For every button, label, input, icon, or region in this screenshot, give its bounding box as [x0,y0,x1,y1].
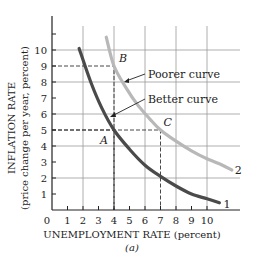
x-tick-label: 4 [111,215,117,226]
x-tick-label: 5 [126,215,132,226]
y-tick-label: 6 [41,109,47,120]
y-tick-label: 4 [41,141,47,152]
x-axis-title: UNEMPLOYMENT RATE (percent) [43,229,220,240]
y-tick-label: 3 [41,157,47,168]
phillips-curve-chart: 01234567891012345678910 12ABCPoorer curv… [0,0,258,258]
y-tick-label: 1 [41,189,47,200]
point-label-B: B [118,52,127,65]
y-tick-label: 9 [41,61,47,72]
x-tick-label: 2 [80,215,86,226]
x-tick-label: 0 [44,215,50,226]
curve-end-label-2: 2 [235,164,242,177]
y-tick-label: 2 [41,173,47,184]
x-tick-label: 10 [201,215,214,226]
x-tick-label: 6 [142,215,148,226]
curve-end-label-1: 1 [223,198,230,211]
axes: 01234567891012345678910 [34,16,240,226]
x-tick-label: 9 [188,215,194,226]
annotation-better-curve: Better curve [148,93,218,106]
y-tick-label: 7 [41,93,47,104]
annotation-poorer-curve: Poorer curve [148,68,220,81]
y-tick-label: 5 [41,125,47,136]
point-label-A: A [99,134,108,147]
x-tick-label: 1 [64,215,70,226]
x-tick-label: 7 [157,215,163,226]
y-axis-title: INFLATION RATE [6,82,17,174]
x-axis-subtitle: (a) [125,242,139,253]
arrowhead-better-curve [110,112,116,117]
x-tick-label: 3 [95,215,101,226]
y-axis-subtitle: (price change per year, percent) [19,46,30,210]
point-label-C: C [164,116,173,129]
x-tick-label: 8 [173,215,179,226]
y-tick-label: 8 [41,77,47,88]
y-tick-label: 10 [34,45,47,56]
